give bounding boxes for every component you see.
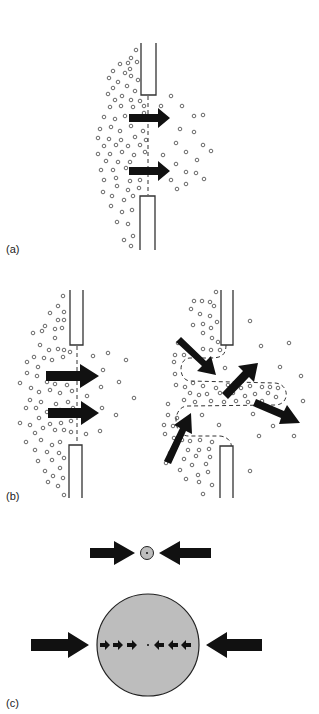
wall-top [70,290,83,345]
diagram-canvas: (a) [0,0,319,714]
arrow-compress-right [159,541,211,565]
wall-top [141,43,156,95]
arrow-flow-lower [129,161,170,181]
center-dot [146,552,148,554]
label-a: (a) [6,243,19,255]
panel-c [31,541,262,696]
arrow-flow-lower [48,401,99,425]
wall-top [221,290,233,345]
label-b: (b) [6,490,19,502]
panel-a [96,43,213,250]
arrow-outflow-up [222,363,258,399]
wall-bottom [140,196,155,250]
label-c: (c) [6,697,19,709]
arrow-inflow-top [176,337,216,375]
center-dot [147,644,149,646]
arrow-external-left [31,632,89,658]
arrow-flow-upper [129,108,170,128]
arrow-compress-left [90,541,135,565]
arrow-external-right [206,632,262,658]
wall-bottom [69,445,82,498]
panel-b-left [18,290,136,498]
panel-b-right [162,290,305,498]
wall-bottom [220,446,233,498]
arrow-outflow-right [253,399,300,424]
arrow-inflow-bottom [164,413,192,464]
arrow-flow-upper [46,364,99,388]
